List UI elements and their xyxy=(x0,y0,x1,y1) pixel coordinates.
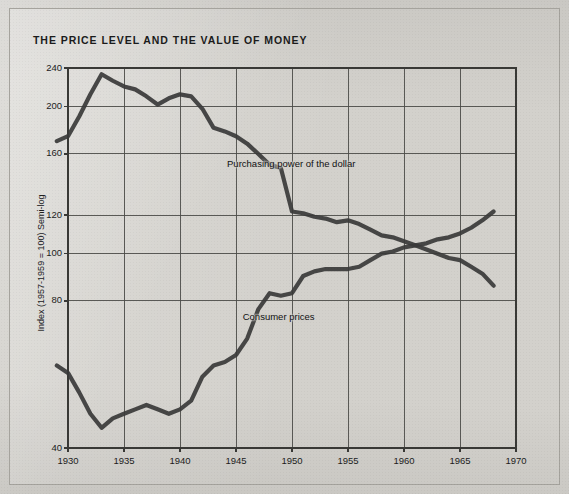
y-axis-tick-label: 160 xyxy=(28,147,62,158)
y-axis-tick-label: 80 xyxy=(28,294,62,305)
y-axis-tick-label: 240 xyxy=(28,62,62,73)
scanned-page: THE PRICE LEVEL AND THE VALUE OF MONEY I… xyxy=(0,0,569,494)
x-axis-tick-label: 1965 xyxy=(437,455,483,466)
x-axis-tick-label: 1945 xyxy=(213,455,259,466)
y-axis-tick-label: 120 xyxy=(28,209,62,220)
series-annotation-label: Purchasing power of the dollar xyxy=(227,158,355,169)
x-axis-tick-label: 1950 xyxy=(269,455,315,466)
x-axis-tick-label: 1970 xyxy=(493,455,539,466)
series-annotation-label: Consumer prices xyxy=(243,311,315,322)
x-axis-tick-label: 1960 xyxy=(381,455,427,466)
chart-container: Index (1957-1959 = 100) Semi-log 2402001… xyxy=(0,0,569,494)
x-axis-tick-label: 1940 xyxy=(157,455,203,466)
plot-area xyxy=(0,0,569,494)
x-axis-tick-label: 1935 xyxy=(101,455,147,466)
y-axis-label: Index (1957-1959 = 100) Semi-log xyxy=(36,178,46,348)
y-axis-tick-label: 100 xyxy=(28,247,62,258)
y-axis-tick-label: 40 xyxy=(28,442,62,453)
y-axis-tick-label: 200 xyxy=(28,100,62,111)
x-axis-tick-label: 1955 xyxy=(325,455,371,466)
x-axis-tick-label: 1930 xyxy=(45,455,91,466)
